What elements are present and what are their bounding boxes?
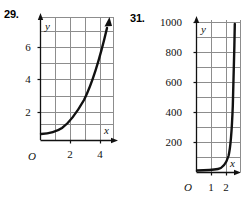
- chart-29-xtick-2: 2: [67, 148, 73, 160]
- chart-29-xtick-4: 4: [97, 148, 103, 160]
- chart-31-ytick-600: 600: [166, 76, 183, 88]
- chart-29-ytick-2: 2: [25, 106, 31, 118]
- chart-31-y-axis: [194, 16, 199, 172]
- chart-31-ytick-400: 400: [166, 106, 183, 118]
- chart-29-x-axis: [41, 138, 119, 143]
- chart-31-origin-label: O: [184, 181, 192, 193]
- chart-31-xtick-1: 1: [208, 181, 214, 193]
- chart-31-plot: y x O 200 400 600 800 1000 1 2: [120, 0, 241, 200]
- figure-31: 31.: [120, 0, 241, 200]
- chart-31-xtick-2: 2: [223, 181, 229, 193]
- chart-31-ytick-800: 800: [166, 46, 183, 58]
- chart-29-y-axis: [38, 13, 43, 140]
- chart-29-curve-arrowhead: [105, 17, 113, 27]
- chart-29-gridlines-horizontal: [40, 18, 114, 125]
- chart-31-x-axis-label: x: [229, 157, 235, 169]
- figure-29: 29.: [0, 0, 120, 200]
- chart-29-plot: y x O 2 4 6 2 4: [0, 0, 120, 200]
- chart-29-ytick-6: 6: [25, 41, 31, 53]
- chart-31-y-axis-label: y: [200, 23, 206, 35]
- chart-31-gridlines-vertical: [212, 20, 241, 172]
- chart-31-ytick-200: 200: [166, 136, 183, 148]
- chart-29-curve: [41, 28, 107, 134]
- chart-29-y-axis-label: y: [44, 20, 50, 32]
- chart-29-origin-label: O: [28, 150, 36, 162]
- chart-29-x-axis-label: x: [103, 124, 109, 136]
- chart-31-ytick-1000: 1000: [160, 16, 183, 28]
- chart-29-ytick-4: 4: [25, 73, 31, 85]
